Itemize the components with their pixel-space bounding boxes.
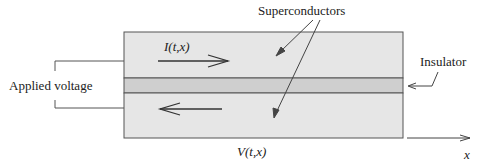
x-axis-label: x (464, 148, 470, 161)
insulator-leader-icon (408, 72, 438, 89)
top-lead-wire (55, 61, 124, 71)
current-label: I(t,x) (164, 40, 190, 53)
superconductors-label: Superconductors (258, 4, 345, 17)
insulator-layer (124, 78, 403, 93)
applied-voltage-label: Applied voltage (9, 79, 92, 92)
bottom-superconductor (124, 93, 403, 138)
insulator-label: Insulator (420, 55, 466, 68)
voltage-label: V(t,x) (237, 145, 266, 158)
x-axis-arrow-icon (407, 135, 470, 141)
bottom-lead-wire (55, 100, 124, 108)
